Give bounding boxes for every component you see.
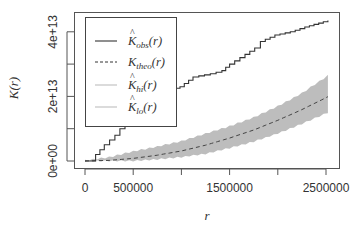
k-function-plot: 050000015000002500000 0e+002e+134e+13 r …	[0, 0, 364, 237]
y-tick-label: 0e+00	[46, 144, 60, 178]
legend: Kobs(r)^Ktheo(r)Khi(r)^Klo(r)^	[86, 18, 177, 127]
y-axis-label: K(r)	[6, 77, 21, 100]
y-tick-label: 4e+13	[46, 15, 60, 49]
x-tick-label: 1500000	[206, 181, 253, 195]
y-axis: 0e+002e+134e+13	[46, 15, 74, 178]
hat-accent: ^	[130, 27, 135, 38]
hat-accent: ^	[130, 93, 135, 104]
y-tick-label: 2e+13	[46, 79, 60, 113]
x-axis-label: r	[204, 208, 210, 223]
x-tick-label: 0	[82, 181, 89, 195]
hat-accent: ^	[130, 71, 135, 82]
x-axis: 050000015000002500000	[82, 169, 350, 195]
x-tick-label: 2500000	[303, 181, 350, 195]
x-tick-label: 500000	[113, 181, 153, 195]
